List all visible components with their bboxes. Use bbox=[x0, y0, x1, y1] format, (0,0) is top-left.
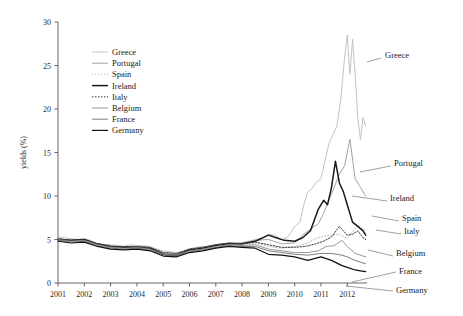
annotation-leader bbox=[352, 272, 396, 282]
y-axis-title: yields (%) bbox=[19, 136, 28, 169]
chart-container: 0510152025302001200220032004200520062007… bbox=[0, 0, 463, 316]
annotation-spain: Spain bbox=[402, 213, 422, 223]
x-tick-label: 2007 bbox=[208, 290, 224, 299]
legend-label-france: France bbox=[112, 114, 135, 124]
series-line-france bbox=[58, 240, 366, 263]
x-tick-label: 2010 bbox=[287, 290, 303, 299]
annotation-leader bbox=[368, 250, 393, 256]
x-tick-label: 2002 bbox=[76, 290, 92, 299]
y-tick-label: 10 bbox=[43, 192, 51, 201]
x-tick-label: 2003 bbox=[103, 290, 119, 299]
legend-label-ireland: Ireland bbox=[112, 81, 137, 91]
annotation-leader bbox=[360, 166, 391, 172]
y-tick-label: 20 bbox=[43, 105, 51, 114]
x-tick-label: 2008 bbox=[234, 290, 250, 299]
y-tick-label: 15 bbox=[43, 149, 51, 158]
annotation-belgium: Belgium bbox=[396, 248, 426, 258]
annotation-leader bbox=[376, 230, 401, 234]
legend-label-greece: Greece bbox=[112, 47, 136, 57]
legend-label-spain: Spain bbox=[112, 69, 132, 79]
series-line-ireland bbox=[58, 161, 366, 255]
annotation-germany: Germany bbox=[396, 285, 428, 295]
y-tick-label: 25 bbox=[43, 62, 51, 71]
annotation-greece: Greece bbox=[385, 50, 409, 60]
y-tick-label: 0 bbox=[47, 279, 51, 288]
x-tick-label: 2006 bbox=[181, 290, 197, 299]
annotation-leader bbox=[372, 216, 399, 221]
legend-label-belgium: Belgium bbox=[112, 103, 142, 113]
legend-label-italy: Italy bbox=[112, 92, 128, 102]
annotation-italy: Italy bbox=[404, 226, 420, 236]
series-line-greece bbox=[58, 35, 366, 253]
y-tick-label: 30 bbox=[43, 18, 51, 27]
annotation-portugal: Portugal bbox=[394, 158, 423, 168]
legend-label-germany: Germany bbox=[112, 125, 144, 135]
y-tick-label: 5 bbox=[47, 236, 51, 245]
x-tick-label: 2004 bbox=[129, 290, 145, 299]
x-tick-label: 2009 bbox=[260, 290, 276, 299]
x-tick-label: 2005 bbox=[155, 290, 171, 299]
series-line-portugal bbox=[58, 139, 366, 253]
legend-label-portugal: Portugal bbox=[112, 58, 141, 68]
annotation-ireland: Ireland bbox=[390, 193, 415, 203]
x-tick-label: 2011 bbox=[313, 290, 329, 299]
annotation-leader bbox=[367, 58, 381, 62]
x-tick-label: 2012 bbox=[339, 290, 355, 299]
yields-line-chart: 0510152025302001200220032004200520062007… bbox=[0, 0, 463, 316]
annotation-leader bbox=[352, 196, 387, 201]
x-tick-label: 2001 bbox=[50, 290, 66, 299]
annotation-france: France bbox=[399, 266, 422, 276]
